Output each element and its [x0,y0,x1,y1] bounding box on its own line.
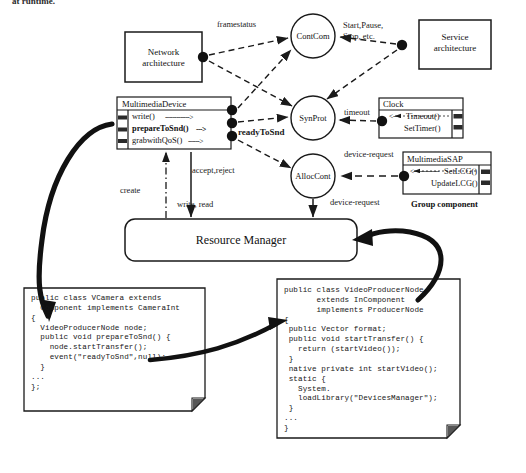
network-architecture-label: Network architecture [125,47,202,69]
multimedia-device-op-1-arrow: ---> [196,125,206,134]
edge-label-accept-reject: accept,reject [192,166,235,176]
code-note-left-text: public class VCamera extends Component i… [31,294,180,393]
edge-label-ready-to-snd: readyToSnd [238,127,285,137]
edge-timeout [339,120,376,121]
edge-framestatus [209,38,288,55]
clock-op-0-arrow: <--- [389,112,399,121]
edge-accept-reject [238,140,291,168]
multimedia-sap-op-0: SetLCG() [444,167,477,176]
diagram-canvas: at runtime. [0,0,526,473]
clock-op-0: Timeout() [406,112,440,121]
connector-contcom-label: ContCom [288,32,338,41]
service-architecture-label: Service architecture [419,32,491,54]
multimedia-sap-op-1: UpdateLCG() [431,179,478,188]
edge-label-write-read: write, read [177,200,213,210]
edge-label-framestatus: framestatus [217,20,256,30]
edge-label-create: create [120,186,140,196]
multimedia-sap-title: MultimediaSAP [407,154,463,164]
code-note-right-text: public class VideoProducerNode extends I… [284,286,438,434]
multimedia-device-op-2: grabwithQoS() [132,136,182,145]
multimedia-sap-op-0-arrow: <--------------- [410,168,439,176]
multimedia-device-op-1: prepareToSnd() [132,124,189,133]
connector-alloccont-label: AllocCont [288,172,338,181]
edge-write-to-contcom [238,50,291,108]
edge-label-timeout: timeout [344,108,370,118]
multimedia-device-op-2-arrow: ------> [188,137,203,146]
multimedia-device-op-0-arrow: -------------> [165,113,193,122]
trace-arrow-device-to-left-note [39,124,112,316]
clock-op-1: SetTimer() [404,124,440,133]
resource-manager-label: Resource Manager [125,233,357,247]
clock-title: Clock [383,99,404,109]
edge-label-device-request-bottom: device-request [330,198,380,208]
group-component-label: Group component [411,199,478,209]
multimedia-device-op-0: write() [132,112,155,121]
edge-label-start-pause-stop: Start,Pause, Stop, etc. [343,20,383,41]
edge-readytosnd [238,117,288,122]
connector-synprot-label: SynProt [288,114,338,123]
edge-service-to-synprot [327,50,397,99]
multimedia-device-title: MultimediaDevice [122,99,186,109]
edge-label-device-request-top: device-request [344,150,394,160]
